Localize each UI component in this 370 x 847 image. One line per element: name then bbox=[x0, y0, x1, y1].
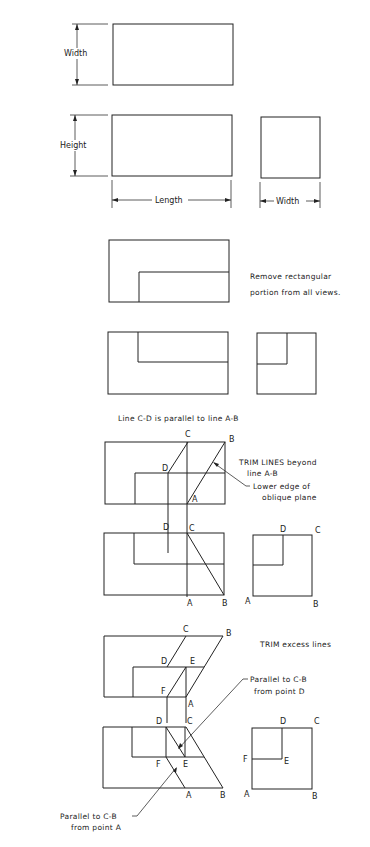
point-label-d: D bbox=[156, 717, 162, 726]
point-label-d: D bbox=[280, 717, 286, 726]
line-c-d bbox=[168, 442, 188, 473]
point-label-f: F bbox=[156, 760, 161, 769]
arrow-icon bbox=[73, 170, 77, 176]
point-label-d: D bbox=[280, 525, 286, 534]
note-parallel-d-line2: from point D bbox=[254, 687, 305, 696]
point-label-f: F bbox=[161, 687, 166, 696]
removed-portion-outline bbox=[133, 667, 204, 697]
point-label-d: D bbox=[163, 523, 169, 532]
point-label-c: C bbox=[183, 625, 189, 634]
top-view-rect bbox=[109, 240, 229, 302]
point-label-c: C bbox=[187, 717, 193, 726]
step4-group: C B D E F A TRIM excess lines Parallel t… bbox=[60, 625, 331, 832]
step2-group: Remove rectangular portion from all view… bbox=[108, 240, 341, 394]
removed-portion-outline bbox=[132, 727, 204, 757]
step3-group: Line C-D is parallel to line A-B C B D A… bbox=[104, 414, 321, 609]
note-remove-line1: Remove rectangular bbox=[250, 272, 332, 281]
removed-portion-outline bbox=[135, 473, 225, 504]
removed-portion-outline bbox=[139, 272, 229, 302]
point-label-e: E bbox=[183, 760, 188, 769]
note-parallel-d-line1: Parallel to C-B bbox=[250, 675, 307, 684]
point-label-a: A bbox=[245, 597, 251, 606]
point-label-a: A bbox=[244, 790, 250, 799]
removed-portion-outline bbox=[134, 533, 224, 564]
arrow-icon bbox=[178, 743, 183, 749]
removed-portion-outline bbox=[253, 535, 283, 565]
point-label-a: A bbox=[187, 599, 193, 608]
removed-portion-outline bbox=[257, 333, 287, 364]
point-label-b: B bbox=[313, 600, 319, 609]
orthographic-construction-drawing: Width Height Length Width Remove rectang… bbox=[0, 0, 370, 847]
point-label-c: C bbox=[314, 717, 320, 726]
arrow-icon bbox=[260, 199, 266, 203]
note-parallel-a-line2: from point A bbox=[71, 823, 122, 832]
front-view-rect bbox=[112, 115, 232, 176]
arrow-icon bbox=[73, 115, 77, 121]
line-f-e bbox=[167, 667, 186, 697]
point-label-b: B bbox=[312, 792, 318, 801]
note-edge-line1: Lower edge of bbox=[253, 482, 310, 491]
point-label-c: C bbox=[185, 430, 191, 439]
arrow-icon bbox=[75, 79, 79, 85]
note-trim-line2: line A-B bbox=[247, 469, 278, 478]
note-edge-line2: oblique plane bbox=[262, 493, 317, 502]
leader-line bbox=[179, 679, 248, 748]
arrow-icon bbox=[314, 199, 320, 203]
point-label-b: B bbox=[220, 791, 226, 800]
note-trim-excess: TRIM excess lines bbox=[259, 640, 331, 649]
note-remove-line2: portion from all views. bbox=[250, 288, 341, 297]
point-label-e: E bbox=[190, 657, 195, 666]
step3-title: Line C-D is parallel to line A-B bbox=[118, 414, 239, 423]
arrow-icon bbox=[112, 198, 118, 202]
point-label-a: A bbox=[188, 700, 194, 709]
step1-group: Width Height Length Width bbox=[58, 24, 320, 208]
arrow-icon bbox=[75, 24, 79, 30]
point-label-d: D bbox=[162, 464, 168, 473]
point-label-b: B bbox=[222, 599, 228, 608]
point-label-e: E bbox=[284, 757, 289, 766]
removed-portion-outline bbox=[138, 332, 228, 362]
leader-line bbox=[132, 768, 176, 816]
dimension-label-width-side: Width bbox=[276, 197, 299, 206]
note-parallel-a-line1: Parallel to C-B bbox=[60, 812, 117, 821]
line-d-e bbox=[166, 727, 185, 757]
removed-portion-outline bbox=[252, 728, 282, 759]
point-label-f: F bbox=[243, 755, 248, 764]
dimension-label-width: Width bbox=[64, 49, 87, 58]
dimension-label-height: Height bbox=[60, 141, 86, 150]
point-label-c: C bbox=[189, 524, 195, 533]
point-label-a: A bbox=[186, 791, 192, 800]
point-label-a: A bbox=[192, 495, 198, 504]
front-view-rect bbox=[108, 332, 228, 394]
line-d-c bbox=[167, 636, 186, 667]
top-view-rect bbox=[113, 24, 233, 85]
point-label-d: D bbox=[161, 657, 167, 666]
arrow-icon bbox=[225, 198, 231, 202]
point-label-b: B bbox=[226, 629, 232, 638]
point-label-c: C bbox=[315, 526, 321, 535]
note-trim-line1: TRIM LINES beyond bbox=[238, 458, 317, 467]
side-view-rect bbox=[261, 117, 320, 178]
point-label-b: B bbox=[229, 435, 235, 444]
dimension-label-length: Length bbox=[155, 196, 183, 205]
